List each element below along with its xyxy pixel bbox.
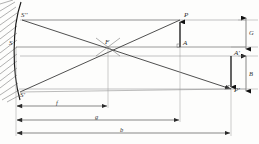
ray-reflected-through-focus <box>22 20 231 89</box>
ray-reflected-parallel <box>20 89 231 92</box>
label-mirror-vertex: S <box>9 39 13 47</box>
ray-diagram-canvas: S'' S S' F P A A' P' G B f g b <box>0 0 259 144</box>
label-image-foot: A' <box>233 49 240 57</box>
label-object-tip: P <box>183 11 189 19</box>
label-dim-b: b <box>120 126 124 133</box>
label-mirror-top: S'' <box>21 11 28 19</box>
optics-diagram: S'' S S' F P A A' P' G B f g b <box>0 0 259 144</box>
label-dim-G: G <box>249 29 254 36</box>
label-mirror-bottom: S' <box>20 91 26 99</box>
label-dim-g: g <box>95 113 99 120</box>
label-dim-B: B <box>249 70 253 77</box>
label-dim-f: f <box>56 99 59 106</box>
label-object-foot: A <box>182 39 188 47</box>
label-image-tip: P' <box>233 86 240 94</box>
label-focus: F <box>104 38 110 46</box>
